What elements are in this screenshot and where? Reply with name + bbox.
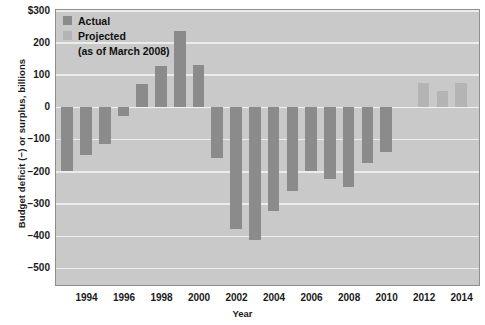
- bar-2014: [455, 83, 467, 106]
- legend-label-actual: Actual: [78, 15, 110, 27]
- gridline: [56, 10, 479, 12]
- y-tick-label: −200: [4, 166, 50, 177]
- x-tick-label: 2002: [217, 292, 257, 303]
- bar-1999: [174, 31, 186, 107]
- x-tick-label: 2004: [254, 292, 294, 303]
- bar-2001: [211, 107, 223, 159]
- y-tick-label: −500: [4, 262, 50, 273]
- x-tick-label: 2012: [404, 292, 444, 303]
- bar-1997: [136, 84, 148, 107]
- legend-swatch-actual-icon: [63, 16, 72, 25]
- bar-2009: [362, 107, 374, 163]
- x-tick-label: 2014: [442, 292, 482, 303]
- bar-1994: [80, 107, 92, 155]
- gridline: [56, 74, 479, 76]
- x-tick-label: 2010: [367, 292, 407, 303]
- bar-1996: [118, 107, 130, 117]
- y-tick-label: 100: [4, 69, 50, 80]
- bar-2000: [193, 65, 205, 106]
- bar-2013: [437, 91, 449, 107]
- x-axis-title: Year: [0, 308, 485, 319]
- bar-1998: [155, 66, 167, 106]
- gridline: [56, 236, 479, 238]
- y-tick-label: 200: [4, 37, 50, 48]
- legend-item-actual: Actual: [63, 14, 170, 27]
- bar-1995: [99, 107, 111, 144]
- y-tick-label: −300: [4, 198, 50, 209]
- legend-note: (as of March 2008): [78, 44, 170, 57]
- legend-swatch-projected-icon: [63, 31, 72, 40]
- bar-2012: [418, 83, 430, 106]
- bar-2007: [324, 107, 336, 180]
- y-tick-label: 0: [4, 101, 50, 112]
- x-tick-label: 1994: [67, 292, 107, 303]
- x-tick-label: 1998: [142, 292, 182, 303]
- bar-2003: [249, 107, 261, 240]
- y-tick-label: −400: [4, 230, 50, 241]
- bar-2008: [343, 107, 355, 188]
- bar-2005: [287, 107, 299, 191]
- chart-legend: Actual Projected (as of March 2008): [63, 14, 170, 59]
- x-tick-label: 1996: [104, 292, 144, 303]
- bar-2006: [305, 107, 317, 171]
- bar-2002: [230, 107, 242, 229]
- chart-figure: Budget deficit (−) or surplus, billions …: [0, 0, 485, 325]
- legend-label-projected: Projected: [78, 30, 126, 42]
- bar-2004: [268, 107, 280, 212]
- bar-1993: [61, 107, 73, 171]
- gridline: [56, 268, 479, 270]
- x-tick-label: 2008: [329, 292, 369, 303]
- bar-2010: [380, 107, 392, 152]
- x-tick-label: 2006: [292, 292, 332, 303]
- y-tick-label: $300: [4, 5, 50, 16]
- legend-item-projected: Projected: [63, 29, 170, 42]
- x-tick-label: 2000: [179, 292, 219, 303]
- y-tick-label: −100: [4, 133, 50, 144]
